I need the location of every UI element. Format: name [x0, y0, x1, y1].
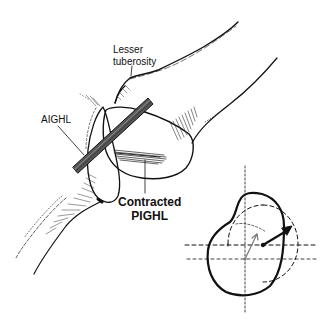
hatching-neck [170, 107, 197, 140]
label-pighl-line1: Contracted [118, 196, 181, 210]
leader-aighl [58, 126, 84, 155]
label-lesser-line1: Lesser [113, 44, 156, 56]
inset-dashed-circle [263, 205, 298, 282]
humeral-head [103, 107, 193, 179]
inset-gray-arrow [245, 234, 257, 259]
label-contracted-pighl: Contracted PIGHL [118, 196, 181, 224]
label-lesser-line2: tuberosity [113, 56, 156, 68]
label-pighl-line2: PIGHL [118, 210, 181, 224]
inset-inner-dashed-arc [236, 223, 266, 232]
humerus-lower-contour [192, 58, 277, 143]
pighl-fibers [114, 150, 166, 164]
label-aighl: AIGHL [41, 114, 71, 126]
inset-kidney-outline [208, 193, 284, 295]
leader-lesser-tuberosity [131, 66, 132, 76]
scapula-lower-contour [34, 202, 100, 274]
shoulder-diagram [0, 0, 329, 327]
hatching-scapula [46, 174, 96, 234]
aighl-band [73, 98, 153, 173]
inset-translation-schematic [185, 166, 318, 312]
label-lesser-tuberosity: Lesser tuberosity [113, 44, 156, 67]
